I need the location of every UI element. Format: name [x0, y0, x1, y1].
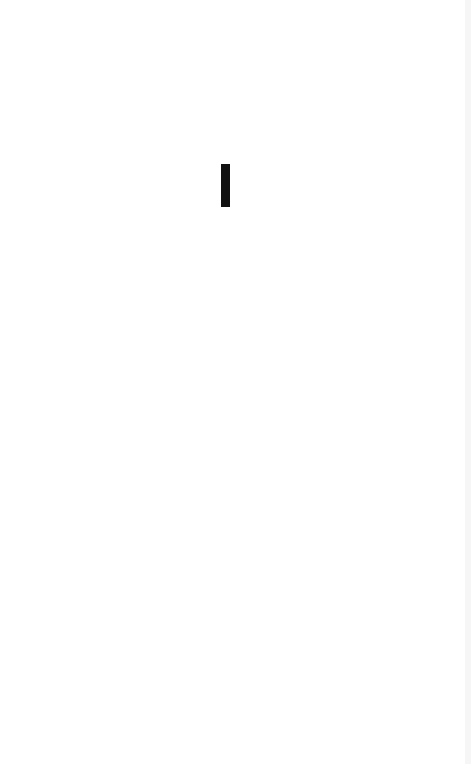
text-cursor	[221, 164, 230, 207]
blank-page	[0, 0, 471, 764]
window-edge	[465, 0, 471, 764]
